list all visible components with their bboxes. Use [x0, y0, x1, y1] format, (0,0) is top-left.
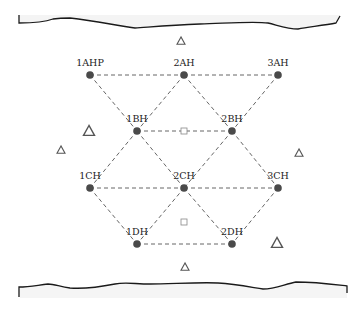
borehole-dot-icon: [180, 71, 188, 79]
triangle-marker-icon: [57, 146, 65, 153]
top-boundary: [19, 15, 340, 29]
node-1DH: 1DH: [126, 226, 148, 248]
node-2BH: 2BH: [221, 113, 242, 135]
bottom-boundary: [19, 282, 347, 298]
node-label: 2DH: [221, 226, 243, 237]
node-label: 1AHP: [76, 57, 104, 68]
node-label: 2AH: [173, 57, 194, 68]
square-marker-icon: [181, 128, 187, 134]
node-1CH: 1CH: [79, 170, 101, 192]
borehole-dot-icon: [180, 184, 188, 192]
triangle-marker-icon: [84, 126, 95, 136]
node-1AHP: 1AHP: [76, 57, 104, 79]
triangle-marker-icon: [181, 263, 189, 270]
diagram-canvas: 1AHP2AH3AH1BH2BH1CH2CH3CH1DH2DH: [0, 0, 359, 312]
node-label: 1DH: [126, 226, 148, 237]
borehole-dot-icon: [274, 71, 282, 79]
node-label: 1CH: [79, 170, 101, 181]
node-label: 2BH: [221, 113, 242, 124]
square-marker-icon: [181, 219, 187, 225]
triangle-marker-icon: [272, 238, 283, 248]
borehole-dot-icon: [228, 240, 236, 248]
node-label: 1BH: [126, 113, 147, 124]
borehole-dot-icon: [86, 71, 94, 79]
node-3AH: 3AH: [267, 57, 288, 79]
borehole-dot-icon: [274, 184, 282, 192]
node-3CH: 3CH: [267, 170, 289, 192]
node-2CH: 2CH: [173, 170, 195, 192]
triangle-marker-icon: [177, 37, 185, 44]
borehole-dot-icon: [86, 184, 94, 192]
node-2AH: 2AH: [173, 57, 194, 79]
node-label: 2CH: [173, 170, 195, 181]
node-label: 3CH: [267, 170, 289, 181]
node-label: 3AH: [267, 57, 288, 68]
triangle-marker-icon: [295, 149, 303, 156]
borehole-dot-icon: [133, 240, 141, 248]
node-2DH: 2DH: [221, 226, 243, 248]
borehole-dot-icon: [228, 127, 236, 135]
node-1BH: 1BH: [126, 113, 147, 135]
borehole-dot-icon: [133, 127, 141, 135]
markers: [57, 37, 303, 270]
